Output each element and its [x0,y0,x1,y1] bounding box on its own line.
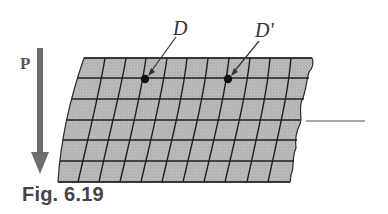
deformed-beam-mesh [58,58,313,182]
point-d-label: D [172,17,188,39]
load-label: P [20,54,30,73]
figure-caption: Fig. 6.19 [22,183,104,206]
point-d-prime-label: D' [254,19,274,41]
load-arrow [31,48,49,174]
diagram-canvas: P D [0,0,388,214]
